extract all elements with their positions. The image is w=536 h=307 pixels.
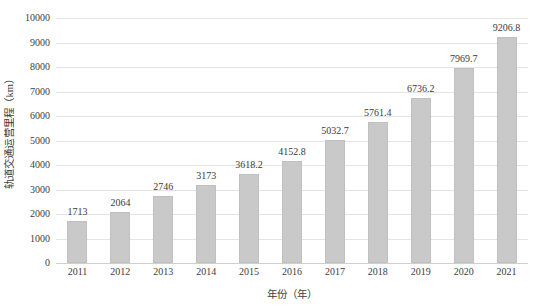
bar[interactable]: [411, 98, 431, 263]
y-tick-label: 3000: [14, 185, 50, 195]
bar[interactable]: [110, 212, 130, 263]
bar-slot: 2064: [99, 18, 142, 263]
bar-value-label: 4152.8: [263, 147, 321, 157]
bar-slot: 5761.4: [356, 18, 399, 263]
y-tick-label: 8000: [14, 62, 50, 72]
bar-value-label: 2064: [91, 198, 149, 208]
y-tick-label: 5000: [14, 136, 50, 146]
bar-value-label: 5032.7: [306, 126, 364, 136]
y-tick-label: 6000: [14, 111, 50, 121]
bar-value-label: 3173: [177, 171, 235, 181]
y-tick-label: 0: [14, 258, 50, 268]
y-tick-label: 9000: [14, 38, 50, 48]
bar-slot: 7969.7: [442, 18, 485, 263]
gridline: [56, 263, 528, 264]
bar[interactable]: [368, 122, 388, 263]
plot-area: 17132064274631733618.24152.85032.75761.4…: [56, 18, 528, 263]
x-tick-label: 2015: [229, 266, 269, 278]
x-tick-label: 2012: [100, 266, 140, 278]
bar[interactable]: [454, 68, 474, 263]
y-axis-tick-labels: 0100020003000400050006000700080009000100…: [0, 0, 56, 307]
bar[interactable]: [196, 185, 216, 263]
bar-slot: 4152.8: [271, 18, 314, 263]
x-tick-label: 2016: [272, 266, 312, 278]
bar-slot: 3618.2: [228, 18, 271, 263]
bar-value-label: 6736.2: [392, 84, 450, 94]
x-tick-label: 2017: [315, 266, 355, 278]
y-tick-label: 4000: [14, 160, 50, 170]
bar-slot: 3173: [185, 18, 228, 263]
bar-slot: 2746: [142, 18, 185, 263]
bar[interactable]: [497, 37, 517, 263]
y-tick-label: 1000: [14, 234, 50, 244]
x-tick-label: 2021: [487, 266, 527, 278]
bar-value-label: 9206.8: [478, 23, 536, 33]
bar[interactable]: [153, 196, 173, 263]
bar-chart: 轨道交通运营里程（km） 010002000300040005000600070…: [0, 0, 536, 307]
y-tick-label: 10000: [14, 13, 50, 23]
x-axis-title: 年份（年）: [56, 286, 528, 301]
bar[interactable]: [282, 161, 302, 263]
y-tick-label: 7000: [14, 87, 50, 97]
bar-value-label: 1713: [48, 207, 106, 217]
bar[interactable]: [67, 221, 87, 263]
x-tick-label: 2011: [57, 266, 97, 278]
bar[interactable]: [239, 174, 259, 263]
bar-value-label: 5761.4: [349, 108, 407, 118]
y-tick-label: 2000: [14, 209, 50, 219]
x-tick-label: 2019: [401, 266, 441, 278]
bar-slot: 1713: [56, 18, 99, 263]
bar-value-label: 3618.2: [220, 160, 278, 170]
x-tick-label: 2020: [444, 266, 484, 278]
bar[interactable]: [325, 140, 345, 263]
bar-slot: 5032.7: [313, 18, 356, 263]
bar-value-label: 7969.7: [435, 54, 493, 64]
bar-value-label: 2746: [134, 182, 192, 192]
x-tick-label: 2018: [358, 266, 398, 278]
x-axis-tick-labels: 2011201220132014201520162017201820192020…: [56, 266, 528, 282]
x-tick-label: 2014: [186, 266, 226, 278]
bar-slot: 9206.8: [485, 18, 528, 263]
x-tick-label: 2013: [143, 266, 183, 278]
